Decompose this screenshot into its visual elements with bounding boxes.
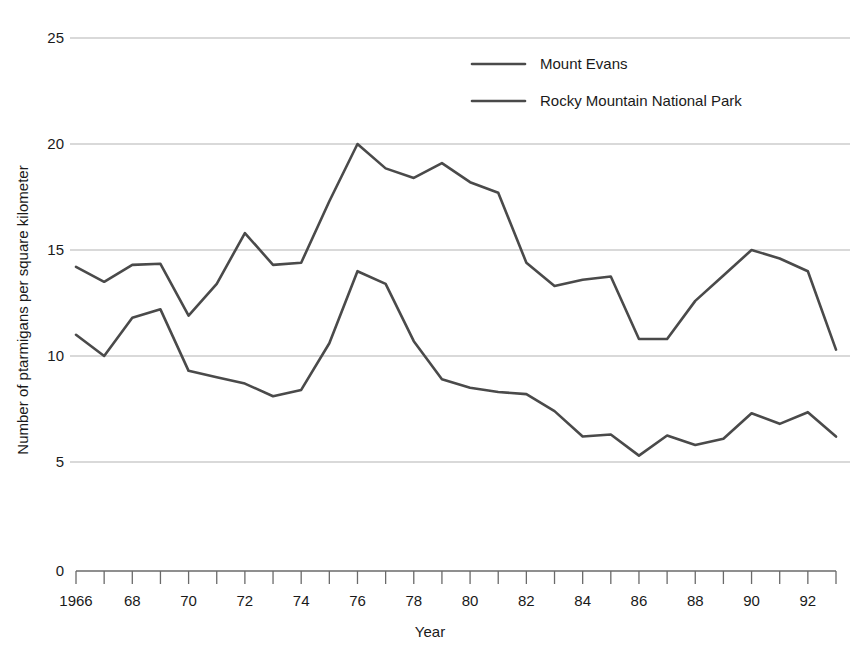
legend-label-mount-evans: Mount Evans [540,55,628,72]
x-tick-label-1992: 92 [800,592,817,609]
x-tick-label-1966: 1966 [59,592,92,609]
x-tick-label-1984: 84 [574,592,591,609]
y-tick-label-15: 15 [47,241,64,258]
y-tick-label-5: 5 [56,453,64,470]
x-tick-label-1972: 72 [237,592,254,609]
y-tick-label-20: 20 [47,135,64,152]
chart-container: 0510152025 19666870727476788082848688909… [0,0,858,649]
x-tick-label-1980: 80 [462,592,479,609]
x-axis-title: Year [415,623,445,640]
legend-label-rocky-mountain-national-park: Rocky Mountain National Park [540,92,742,109]
y-tick-label-10: 10 [47,347,64,364]
x-tick-label-1976: 76 [349,592,366,609]
y-tick-label-0: 0 [56,562,64,579]
y-tick-label-25: 25 [47,29,64,46]
x-tick-label-1974: 74 [293,592,310,609]
x-tick-label-1986: 86 [631,592,648,609]
x-tick-label-1968: 68 [124,592,141,609]
line-chart: 0510152025 19666870727476788082848688909… [0,0,858,649]
y-axis-title: Number of ptarmigans per square kilomete… [14,165,31,454]
x-tick-label-1990: 90 [743,592,760,609]
x-tick-label-1970: 70 [180,592,197,609]
x-tick-label-1982: 82 [518,592,535,609]
x-tick-label-1978: 78 [405,592,422,609]
x-tick-label-1988: 88 [687,592,704,609]
